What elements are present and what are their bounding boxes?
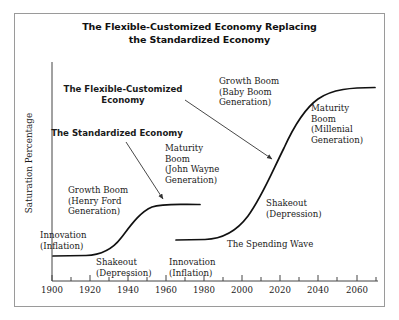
annotation-standardized-economy: The Standardized Economy [48, 128, 186, 139]
x-tick-label-1900: 1900 [32, 285, 72, 295]
y-axis-label: Saturation Percentage [24, 98, 34, 228]
x-tick-label-1960: 1960 [146, 285, 186, 295]
annotation-maturity-boom-millenial: Maturity Boom (Millenial Generation) [311, 103, 363, 145]
arrow-standardized-economy [126, 142, 163, 199]
x-tick-label-1920: 1920 [70, 285, 110, 295]
annotation-shakeout-depression-left: Shakeout (Depression) [96, 257, 152, 278]
annotation-innovation-inflation-left: Innovation (Inflation) [40, 230, 87, 251]
annotation-growth-boom-henry-ford: Growth Boom (Henry Ford Generation) [68, 185, 128, 217]
annotation-shakeout-depression-right: Shakeout (Depression) [266, 198, 322, 219]
x-tick-label-1940: 1940 [108, 285, 148, 295]
annotation-the-spending-wave: The Spending Wave [227, 239, 313, 250]
annotation-flexible-customized-economy: The Flexible-Customized Economy [62, 84, 184, 106]
x-tick-label-2000: 2000 [222, 285, 262, 295]
x-tick-label-2040: 2040 [298, 285, 338, 295]
x-tick-label-1980: 1980 [184, 285, 224, 295]
chart-figure: The Flexible-Customized Economy Replacin… [0, 0, 399, 320]
annotation-maturity-boom-john-wayne: Maturity Boom (John Wayne Generation) [165, 143, 219, 185]
x-tick-label-2020: 2020 [260, 285, 300, 295]
annotation-innovation-inflation-right: Innovation (Inflation) [169, 257, 216, 278]
x-tick-label-2060: 2060 [337, 285, 377, 295]
annotation-growth-boom-baby-boom: Growth Boom (Baby Boom Generation) [219, 76, 279, 108]
